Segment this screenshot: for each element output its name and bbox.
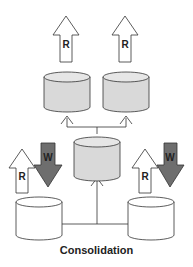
database-icon-top-right bbox=[103, 72, 149, 112]
database-icon-bottom-right bbox=[128, 197, 174, 240]
consolidation-diagram: R R R W R W bbox=[0, 0, 193, 267]
database-icon-top-left bbox=[44, 72, 90, 112]
read-arrow-icon-top-left: R bbox=[53, 16, 79, 62]
diagram-caption: Consolidation bbox=[0, 244, 193, 256]
read-label: R bbox=[141, 171, 149, 182]
read-arrow-icon-bottom-right: R bbox=[132, 149, 158, 193]
write-label: W bbox=[165, 152, 175, 163]
database-icon-bottom-left bbox=[16, 197, 62, 240]
write-label: W bbox=[43, 152, 53, 163]
read-arrow-icon-bottom-left: R bbox=[9, 149, 35, 193]
top-connector-line bbox=[67, 118, 126, 127]
read-label: R bbox=[62, 39, 70, 50]
read-arrow-icon-top-right: R bbox=[112, 16, 138, 62]
read-label: R bbox=[18, 171, 26, 182]
write-arrow-icon-bottom-right: W bbox=[157, 143, 184, 187]
write-arrow-icon-bottom-left: W bbox=[34, 143, 62, 187]
database-icon-center bbox=[74, 137, 120, 181]
read-label: R bbox=[121, 39, 129, 50]
